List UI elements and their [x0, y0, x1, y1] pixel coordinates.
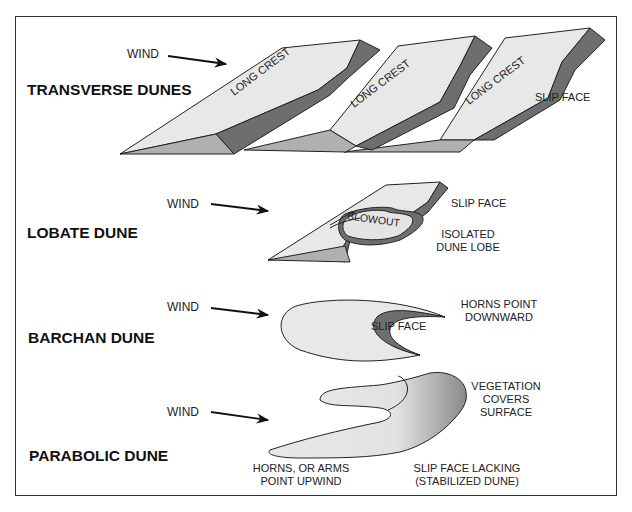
slip-face-lacking-text: SLIP FACE LACKING: [407, 462, 527, 475]
downward-label: DOWNWARD: [454, 311, 544, 324]
horns-point-label: HORNS POINT: [454, 298, 544, 311]
vegetation-covers-surface-label: VEGETATION COVERS SURFACE: [461, 380, 551, 419]
surface-label: SURFACE: [461, 406, 551, 419]
barchan-dune-title: BARCHAN DUNE: [28, 329, 155, 347]
transverse-dunes-title: TRANSVERSE DUNES: [27, 81, 192, 99]
wind-label: WIND: [167, 301, 199, 314]
slip-face-label: SLIP FACE: [451, 197, 506, 210]
wind-arrow-icon: [211, 308, 268, 315]
vegetation-label: VEGETATION: [461, 380, 551, 393]
covers-label: COVERS: [461, 393, 551, 406]
isolated-dune-lobe-label: ISOLATED DUNE LOBE: [432, 228, 504, 254]
lobate-dune-title: LOBATE DUNE: [27, 224, 138, 242]
parabolic-dune-title: PARABOLIC DUNE: [29, 447, 168, 465]
wind-label: WIND: [167, 406, 199, 419]
wind-arrow-icon: [211, 412, 268, 420]
slip-face-label: SLIP FACE: [371, 320, 426, 333]
stabilized-dune-label: (STABILIZED DUNE): [407, 475, 527, 488]
horns-point-downward-label: HORNS POINT DOWNWARD: [454, 298, 544, 324]
slip-face-lacking-label: SLIP FACE LACKING (STABILIZED DUNE): [407, 462, 527, 488]
wind-label: WIND: [167, 198, 199, 211]
point-upwind-label: POINT UPWIND: [246, 475, 356, 488]
isolated-label: ISOLATED: [432, 228, 504, 241]
wind-arrow-icon: [168, 56, 226, 64]
dune-illustrations: [0, 0, 632, 512]
slip-face-label: SLIP FACE: [535, 91, 590, 104]
wind-arrow-icon: [211, 204, 268, 211]
parabolic-dune: [269, 372, 466, 458]
horns-arms-upwind-label: HORNS, OR ARMS POINT UPWIND: [246, 462, 356, 488]
dune-lobe-label: DUNE LOBE: [432, 241, 504, 254]
horns-or-arms-label: HORNS, OR ARMS: [246, 462, 356, 475]
wind-label: WIND: [127, 48, 159, 61]
